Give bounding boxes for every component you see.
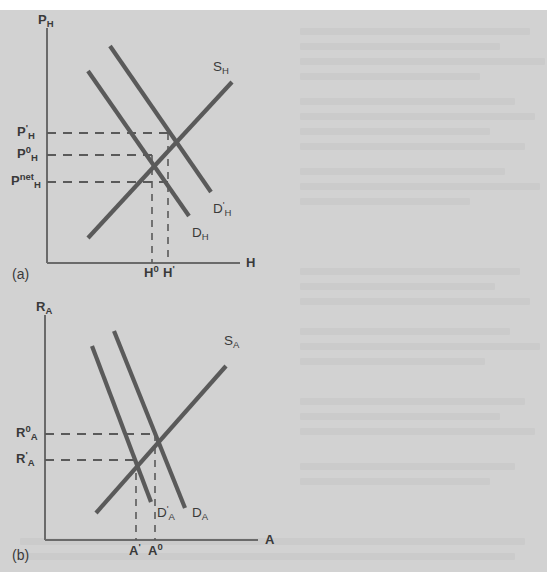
panel-a-xtick-h-zero: H0 <box>144 263 159 280</box>
panel-a-ytick-p-net: PnetH <box>11 171 41 190</box>
panel-a-supply-label: SH <box>213 59 229 76</box>
panel-b-demand-shifted-label: D'A <box>157 503 176 522</box>
panel-a-y-axis-label: PH <box>38 12 54 29</box>
panel-a-x-axis-label: H <box>246 255 255 270</box>
panel-b-demand-shifted-curve <box>92 346 151 502</box>
panel-b-demand-label: DA <box>192 505 209 522</box>
panel-b: RA A SA DA <box>12 299 275 563</box>
panel-a: PH H SH DH <box>11 12 255 282</box>
panel-a-ytick-p-prime: P'H <box>17 122 35 141</box>
panel-a-caption: (a) <box>12 266 29 282</box>
panel-a-demand-label: DH <box>192 225 209 242</box>
economics-figure: PH H SH DH <box>0 0 547 587</box>
panel-b-y-axis-label: RA <box>36 299 52 316</box>
panel-b-xtick-a-prime: A' <box>129 541 141 558</box>
panel-b-x-axis-label: A <box>265 532 275 547</box>
panel-a-xtick-h-prime: H' <box>163 263 175 280</box>
panel-b-xtick-a-zero: A0 <box>148 541 163 558</box>
panel-b-supply-label: SA <box>224 333 240 350</box>
panel-b-supply-curve <box>96 366 226 513</box>
panel-b-ytick-r-zero: R0A <box>16 423 38 442</box>
figure-svg: PH H SH DH <box>0 0 547 587</box>
panel-b-ytick-r-prime: R'A <box>16 449 35 468</box>
panel-b-caption: (b) <box>12 547 29 563</box>
scanned-page: PH H SH DH <box>0 0 547 587</box>
panel-a-demand-shifted-label: D'H <box>213 199 232 218</box>
panel-a-ytick-p-zero: P0H <box>17 144 38 163</box>
